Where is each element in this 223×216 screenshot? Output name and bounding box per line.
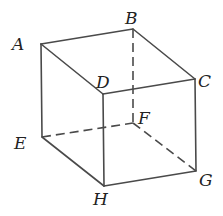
cube-diagram: A B C D E F G H xyxy=(0,0,223,216)
visible-edges xyxy=(41,29,196,186)
label-H: H xyxy=(92,189,109,209)
edge-DA xyxy=(41,44,103,94)
label-C: C xyxy=(198,71,211,91)
edge-EF-hidden xyxy=(42,123,133,137)
edge-AE xyxy=(41,44,42,137)
edge-FG-hidden xyxy=(133,123,196,171)
label-G: G xyxy=(199,170,213,190)
edge-AB xyxy=(41,29,133,44)
label-D: D xyxy=(95,72,110,92)
edge-EH xyxy=(42,137,104,186)
edge-BC xyxy=(133,29,195,79)
edge-DH xyxy=(103,94,104,186)
label-A: A xyxy=(10,34,24,54)
label-F: F xyxy=(137,108,151,128)
label-E: E xyxy=(13,133,27,153)
edge-CD xyxy=(103,79,195,94)
hidden-edges xyxy=(42,29,196,171)
vertex-labels: A B C D E F G H xyxy=(10,8,213,209)
label-B: B xyxy=(124,8,138,28)
edge-HG xyxy=(104,171,196,186)
edge-CG xyxy=(195,79,196,171)
